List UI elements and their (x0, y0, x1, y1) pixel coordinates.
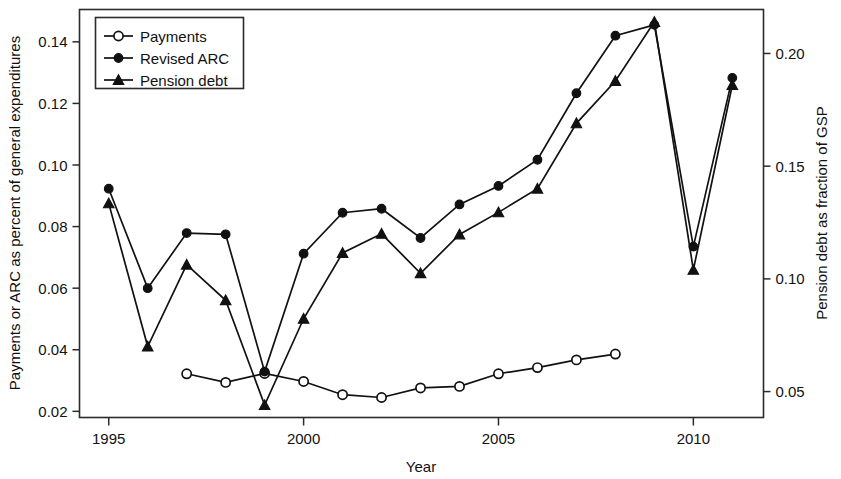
y-axis-title: Payments or ARC as percent of general ex… (6, 36, 23, 390)
data-point (416, 234, 425, 243)
chart-figure: 0.020.040.060.080.100.120.14 0.050.100.1… (0, 0, 841, 479)
left-tick-label: 0.04 (38, 341, 67, 358)
legend-label: Revised ARC (140, 50, 229, 67)
data-point (533, 155, 542, 164)
left-tick-label: 0.02 (38, 403, 67, 420)
data-point (104, 184, 113, 193)
data-point (221, 230, 230, 239)
x-tick-label: 2010 (677, 430, 710, 447)
data-point (143, 284, 152, 293)
right-tick-label: 0.10 (776, 270, 805, 287)
legend-marker-filled-circle (114, 54, 123, 63)
legend-label: Payments (140, 28, 207, 45)
left-tick-label: 0.12 (38, 95, 67, 112)
data-point (377, 204, 386, 213)
data-point (494, 182, 503, 191)
data-point (299, 377, 308, 386)
right-tick-label: 0.20 (776, 45, 805, 62)
data-point (299, 249, 308, 258)
legend-marker-open-circle (114, 31, 123, 40)
data-point (572, 355, 581, 364)
left-tick-label: 0.08 (38, 218, 67, 235)
data-point (182, 229, 191, 238)
y2-axis-title: Pension debt as fraction of GSP (813, 106, 830, 319)
data-point (260, 367, 269, 376)
left-tick-label: 0.14 (38, 33, 67, 50)
data-point (416, 383, 425, 392)
chart-legend: PaymentsRevised ARCPension debt (96, 18, 244, 89)
pension-line-chart: 0.020.040.060.080.100.120.14 0.050.100.1… (0, 0, 841, 479)
legend-label: Pension debt (140, 72, 228, 89)
data-point (455, 200, 464, 209)
data-point (338, 208, 347, 217)
data-point (182, 369, 191, 378)
data-point (494, 369, 503, 378)
left-tick-label: 0.10 (38, 157, 67, 174)
right-tick-label: 0.05 (776, 383, 805, 400)
x-tick-label: 1995 (92, 430, 125, 447)
left-tick-label: 0.06 (38, 280, 67, 297)
x-tick-label: 2005 (482, 430, 515, 447)
data-point (611, 31, 620, 40)
right-tick-label: 0.15 (776, 158, 805, 175)
data-point (338, 390, 347, 399)
data-point (455, 382, 464, 391)
data-point (572, 89, 581, 98)
data-point (533, 363, 542, 372)
data-point (377, 393, 386, 402)
data-point (221, 378, 230, 387)
x-axis-title: Year (406, 458, 436, 475)
x-tick-label: 2000 (287, 430, 320, 447)
data-point (611, 349, 620, 358)
